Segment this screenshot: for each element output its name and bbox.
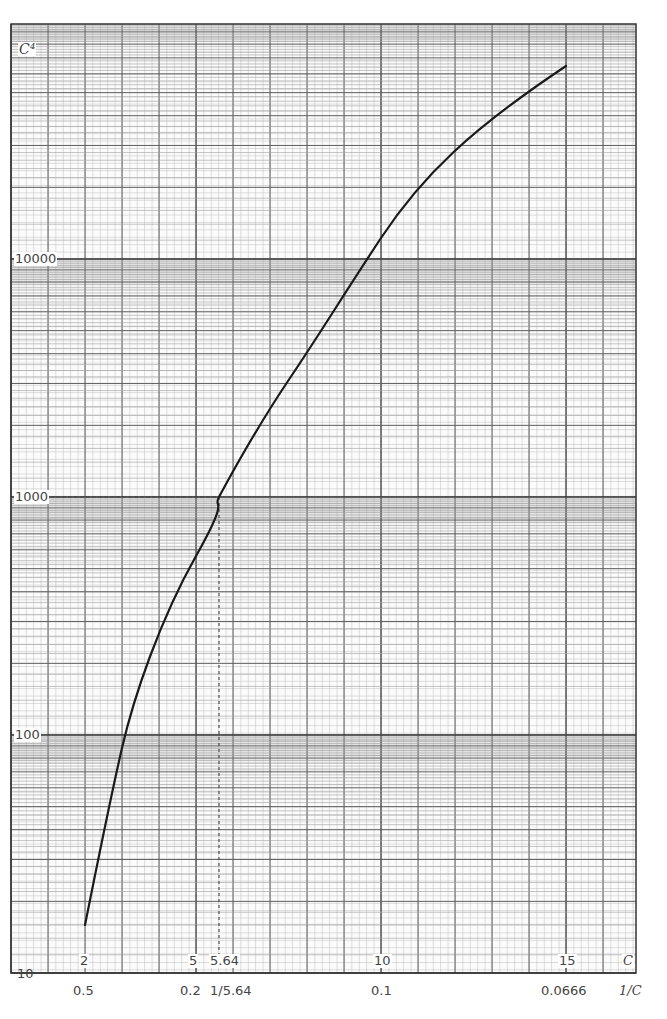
- inv-tick-0-2: 0.2: [180, 983, 201, 998]
- inv-tick-0-1: 0.1: [371, 983, 392, 998]
- y-tick-100: 100: [14, 728, 41, 742]
- x-tick-10: 10: [373, 954, 392, 968]
- inv-tick-0-0666: 0.0666: [541, 983, 587, 998]
- x-axis-label: C: [622, 954, 634, 968]
- x-tick-5-64: 5.64: [209, 954, 240, 968]
- inv-tick-0-5: 0.5: [73, 983, 94, 998]
- inv-tick-1-5-64: 1/5.64: [210, 983, 252, 998]
- x-tick-15: 15: [558, 954, 577, 968]
- y-tick-10: 10: [16, 967, 35, 981]
- x-tick-5: 5: [188, 954, 198, 968]
- semilog-plot: [0, 0, 667, 1019]
- y-axis-label: C⁴: [18, 42, 36, 56]
- x-tick-2: 2: [79, 954, 89, 968]
- y-tick-10000: 10000: [14, 252, 57, 266]
- inv-axis-label: 1/C: [619, 983, 642, 998]
- y-tick-1000: 1000: [14, 490, 49, 504]
